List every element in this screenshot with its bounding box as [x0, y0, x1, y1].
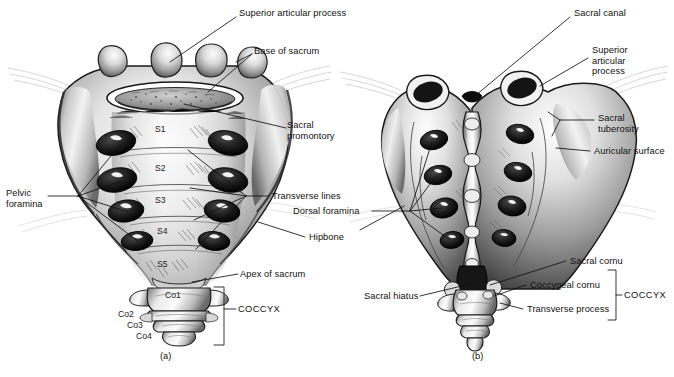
label-sacral-cornu: Sacral cornu	[570, 256, 623, 267]
caption-a: (a)	[160, 351, 171, 361]
label-coccyx-b: COCCYX	[624, 290, 666, 301]
label-coccygeal-cornu: Coccygeal cornu	[530, 280, 600, 291]
label-sacral-canal: Sacral canal	[574, 8, 626, 19]
label-base-of-sacrum: Base of sacrum	[254, 46, 319, 57]
segment-label-co2: Co2	[118, 309, 134, 319]
label-sacral-tuberosity: Sacral tuberosity	[598, 113, 639, 134]
label-hipbone: Hipbone	[309, 232, 344, 243]
figure-canvas: Superior articular process Base of sacru…	[0, 0, 674, 377]
segment-label-s5: S5	[157, 259, 168, 269]
label-pelvic-foramina: Pelvic foramina	[6, 188, 43, 209]
label-coccyx-a: COCCYX	[238, 304, 280, 315]
superior-articular-process-mid	[151, 43, 182, 77]
label-sacral-hiatus: Sacral hiatus	[364, 291, 418, 302]
superior-articular-process-right	[196, 44, 227, 77]
median-sacral-crest	[463, 112, 481, 282]
sacrum-posterior	[340, 66, 668, 351]
label-auricular-surface: Auricular surface	[594, 146, 665, 157]
label-transverse-process: Transverse process	[527, 304, 609, 315]
segment-label-s3: S3	[155, 195, 166, 205]
label-superior-articular-process-a: Superior articular process	[239, 8, 346, 19]
base-of-sacrum-surface	[107, 82, 243, 114]
segment-label-s4: S4	[157, 226, 168, 236]
sacral-hiatus	[457, 266, 487, 292]
superior-articular-process-left	[98, 46, 127, 77]
anatomy-illustration	[0, 0, 674, 377]
label-apex-of-sacrum: Apex of sacrum	[240, 269, 305, 280]
coccyx-posterior	[438, 290, 511, 351]
segment-label-co1: Co1	[165, 290, 181, 300]
segment-label-co3: Co3	[127, 320, 143, 330]
segment-label-s1: S1	[155, 124, 166, 134]
label-superior-articular-process-b: Superior articular process	[592, 45, 628, 77]
segment-label-s2: S2	[155, 163, 166, 173]
label-dorsal-foramina: Dorsal foramina	[293, 206, 359, 217]
coccygeal-cornu-left	[457, 292, 467, 300]
coccygeal-cornu-right	[483, 291, 493, 299]
label-transverse-lines: Transverse lines	[272, 191, 341, 202]
caption-b: (b)	[472, 351, 483, 361]
label-sacral-promontory: Sacral promontory	[287, 120, 335, 141]
segment-label-co4: Co4	[136, 331, 152, 341]
